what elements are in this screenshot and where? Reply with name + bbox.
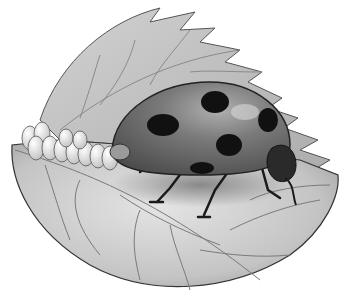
abdomen-tip — [110, 144, 130, 160]
spot-icon — [258, 108, 278, 132]
spot-icon — [190, 162, 214, 174]
spot-icon — [216, 134, 242, 156]
ladybug-leaf-illustration — [0, 0, 346, 299]
shell-highlight — [231, 104, 259, 120]
ladybug-head — [267, 145, 296, 181]
illustration — [0, 0, 346, 299]
spot-icon — [201, 91, 229, 113]
spot-icon — [147, 114, 179, 136]
